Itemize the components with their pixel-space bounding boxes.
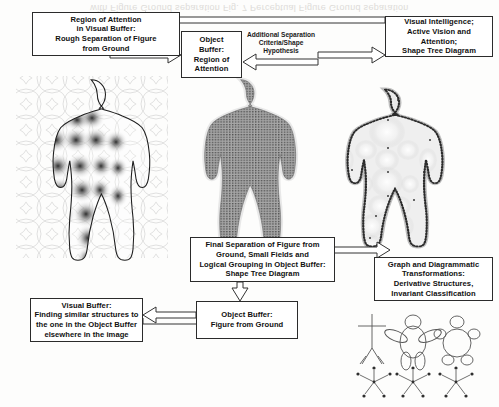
arrow-objectbufferfg-to-visualbuffer <box>143 307 196 323</box>
box-line: Visual Buffer: <box>34 301 139 311</box>
box-object-buffer-figure-from-ground[interactable]: Object Buffer: Figure from Ground <box>196 301 298 339</box>
box-line: from Ground <box>36 44 176 54</box>
diagram-canvas: with Figure Ground separation Fig. 7 Per… <box>0 0 499 407</box>
box-line: Region of Attention <box>36 15 176 25</box>
box-line: Attention <box>185 64 238 74</box>
label-line: Criteria/Shape <box>244 39 318 47</box>
arrow-objectbuffer-to-visualintel <box>318 47 385 63</box>
arrows-layer <box>0 0 499 407</box>
box-line: elsewhere in the image <box>34 330 139 340</box>
box-line: Derivative Structures, <box>378 279 489 289</box>
box-line: the one in the Object Buffer <box>34 320 139 330</box>
box-line: Region of <box>185 55 238 65</box>
label-line: Additional Separation <box>244 31 318 39</box>
box-line: Rough Separation of Figure <box>36 34 176 44</box>
box-line: in Visual Buffer: <box>36 24 176 34</box>
box-visual-intelligence[interactable]: Visual Intelligence; Active Vision and A… <box>385 16 493 57</box>
label-line: Hypothesis <box>244 47 318 55</box>
box-line: Ground, Small Fields and <box>194 250 331 260</box>
box-line: Active Vision and Attention; <box>389 27 489 46</box>
box-line: Buffer: <box>185 45 238 55</box>
box-region-of-attention-visual-buffer[interactable]: Region of Attention in Visual Buffer: Ro… <box>32 12 180 56</box>
box-line: Shape Tree Diagram <box>389 46 489 56</box>
label-additional-separation-criteria: Additional Separation Criteria/Shape Hyp… <box>244 31 318 55</box>
box-line: Graph and Diagrammatic <box>378 260 489 270</box>
box-line: Invariant Classification <box>378 289 489 299</box>
box-object-buffer-region-of-attention[interactable]: Object Buffer: Region of Attention <box>181 31 242 78</box>
box-graph-and-diagrammatic[interactable]: Graph and Diagrammatic Transformations: … <box>374 257 493 301</box>
box-line: Object <box>185 35 238 45</box>
box-line: Transformations: <box>378 269 489 279</box>
box-line: Figure from Ground <box>200 320 294 330</box>
arrow-finalsep-to-objectbuffer-fg <box>232 282 248 301</box>
box-line: Visual Intelligence; <box>389 17 489 27</box>
box-line: Final Separation of Figure from <box>194 240 331 250</box>
box-visual-buffer-finding-similar[interactable]: Visual Buffer: Finding similar structure… <box>30 298 143 342</box>
box-line: Finding similar structures to <box>34 310 139 320</box>
box-line: Object Buffer: <box>200 310 294 320</box>
arrow-visualintel-to-objectbuffer <box>243 54 318 70</box>
arrow-finalsep-to-graph <box>334 242 390 258</box>
box-line: Shape Tree Diagram <box>194 269 331 279</box>
box-final-separation[interactable]: Final Separation of Figure from Ground, … <box>190 237 335 282</box>
box-line: Logical Grouping in Object Buffer: <box>194 260 331 270</box>
